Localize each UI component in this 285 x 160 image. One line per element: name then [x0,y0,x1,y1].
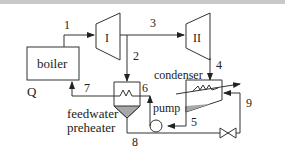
state-5-label: 5 [191,115,197,129]
state-6-label: 6 [142,81,148,95]
heat-input-label: Q [27,84,37,99]
boiler-label: boiler [37,56,68,71]
pump-label: pump [153,101,180,115]
state-8-label: 8 [132,135,138,149]
state-1-label: 1 [64,18,70,32]
state-4-label: 4 [216,58,222,72]
line-1 [64,35,94,47]
preheater-label-line2: preheater [67,120,116,135]
preheater-label-line1: feedwater [67,106,119,121]
turbine-2-label: II [193,31,201,45]
state-7-label: 7 [84,81,90,95]
turbine-1-label: I [105,31,109,45]
line-9 [224,93,240,133]
power-plant-diagram: boiler Q 1 I 3 2 II 4 condenser 9 8 5 [0,0,285,160]
state-3-label: 3 [150,16,156,30]
state-9-label: 9 [246,96,252,110]
throttle-valve-icon [220,128,236,138]
line-7 [72,82,114,96]
state-2-label: 2 [133,49,139,63]
condenser-label: condenser [154,68,203,82]
pump-icon [150,120,162,132]
